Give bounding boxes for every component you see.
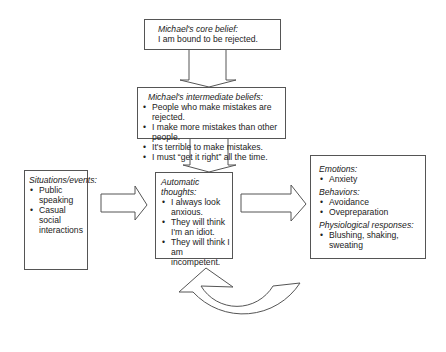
intermediate-beliefs-title: Michael's intermediate beliefs: [142,92,285,102]
intermediate-beliefs-box: Michael's intermediate beliefs: People w… [137,87,286,139]
core-belief-title: Michael's core belief: [158,24,280,34]
list-item: I always look anxious. [161,197,232,217]
core-belief-text: I am bound to be rejected. [158,34,258,44]
emotions-section: Emotions: Anxiety [319,164,425,184]
list-item: I make more mistakes than other people. [142,122,285,142]
physiological-list: Blushing, shaking, sweating [319,230,425,250]
behaviors-section: Behaviors: Avoidance Ovepreparation [319,187,425,217]
emotions-title: Emotions: [319,164,425,174]
situations-box: Situations/events: Public speaking Casua… [24,170,88,270]
list-item: Blushing, shaking, sweating [319,230,425,250]
automatic-thoughts-box: Automatic thoughts: I always look anxiou… [155,172,233,259]
list-item: They will think I'm an idiot. [161,217,232,237]
curved-feedback-arrow-icon [179,268,300,314]
list-item: I must “get it right” all the time. [142,152,285,162]
list-item: They will think I am incompetent. [161,237,232,267]
right-arrow-icon [101,186,147,220]
automatic-thoughts-title: Automatic thoughts: [161,177,232,197]
down-arrow-icon [180,50,236,87]
right-arrow-icon [241,185,306,221]
core-belief-box: Michael's core belief: I am bound to be … [144,19,281,50]
intermediate-beliefs-list: People who make mistakes are rejected. I… [142,102,285,162]
reactions-box: Emotions: Anxiety Behaviors: Avoidance O… [310,155,426,259]
list-item: People who make mistakes are rejected. [142,102,285,122]
list-item: Public speaking [29,185,87,205]
behaviors-list: Avoidance Ovepreparation [319,197,425,217]
list-item: Ovepreparation [319,207,425,217]
list-item: It's terrible to make mistakes. [142,142,285,152]
list-item: Anxiety [319,174,425,184]
behaviors-title: Behaviors: [319,187,425,197]
physiological-title: Physiological responses: [319,220,425,230]
emotions-list: Anxiety [319,174,425,184]
situations-title: Situations/events: [29,175,87,185]
list-item: Avoidance [319,197,425,207]
automatic-thoughts-list: I always look anxious. They will think I… [161,197,232,267]
list-item: Casual social interactions [29,205,87,235]
situations-list: Public speaking Casual social interactio… [29,185,87,235]
physiological-section: Physiological responses: Blushing, shaki… [319,220,425,250]
